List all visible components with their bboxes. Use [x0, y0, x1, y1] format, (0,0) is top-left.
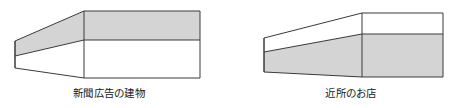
figure-board: 新聞広告の建物 近所のお店: [0, 0, 460, 108]
figure-left-shape: [15, 11, 200, 78]
figure-left-caption: 新聞広告の建物: [0, 87, 218, 100]
figure-right-caption: 近所のお店: [242, 87, 460, 100]
figure-right-shape: [264, 13, 443, 77]
